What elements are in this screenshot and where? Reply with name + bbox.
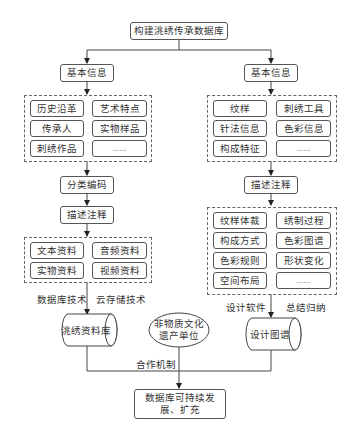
left-describe-label: 描述注释 xyxy=(67,209,107,221)
detail-item: 色彩规则 xyxy=(213,252,267,269)
detail-label: 形状变化 xyxy=(284,255,324,267)
final-node: 数据库可持续发 展、扩充 xyxy=(134,389,226,419)
left-item-label: 艺术特点 xyxy=(100,103,140,115)
right-item-label: 纹样 xyxy=(230,103,250,115)
final-line1: 数据库可持续发 xyxy=(145,392,215,404)
design-atlas-database: 设计图谱 xyxy=(244,318,296,350)
left-item-label: 传承人 xyxy=(42,123,72,135)
material-label: 音频资料 xyxy=(100,245,140,257)
detail-item: …… xyxy=(276,272,331,289)
heritage-unit-line2: 遗产单位 xyxy=(159,330,199,342)
final-line2: 展、扩充 xyxy=(160,404,200,416)
material-item: 音频资料 xyxy=(92,242,147,259)
heritage-unit-line1: 非物质文化 xyxy=(154,318,204,330)
detail-item: 形状变化 xyxy=(276,252,331,269)
right-basic-info-label: 基本信息 xyxy=(251,67,291,79)
material-item: 视频资料 xyxy=(92,262,147,279)
classify-label: 分类编码 xyxy=(67,179,107,191)
detail-item: 空间布局 xyxy=(213,272,267,289)
left-describe-node: 描述注释 xyxy=(60,206,114,224)
left-basic-info: 基本信息 xyxy=(60,64,114,82)
right-describe-node: 描述注释 xyxy=(244,176,298,194)
detail-item: 绣制过程 xyxy=(276,212,331,229)
right-basic-info: 基本信息 xyxy=(244,64,298,82)
left-item: 刺绣作品 xyxy=(30,140,84,157)
design-software-label: 设计软件 xyxy=(226,300,266,314)
detail-item: 色彩图谱 xyxy=(276,232,331,249)
left-item-label: 历史沿革 xyxy=(37,103,77,115)
right-item: 针法信息 xyxy=(213,120,267,137)
left-item: 传承人 xyxy=(30,120,84,137)
material-item: 文本资料 xyxy=(30,242,84,259)
left-item: 艺术特点 xyxy=(92,100,147,117)
material-label: 实物资料 xyxy=(37,265,77,277)
taoxiu-database-label: 洮绣资料库 xyxy=(61,323,111,337)
detail-label: 纹样体裁 xyxy=(220,215,260,227)
heritage-unit-node: 非物质文化 遗产单位 xyxy=(149,314,209,346)
detail-label: …… xyxy=(297,275,311,287)
classify-node: 分类编码 xyxy=(60,176,114,194)
right-item: 纹样 xyxy=(213,100,267,117)
right-item-label: 色彩信息 xyxy=(284,123,324,135)
right-item: …… xyxy=(276,140,331,157)
cooperation-label: 合作机制 xyxy=(136,357,176,371)
left-item-label: …… xyxy=(113,143,127,155)
material-label: 视频资料 xyxy=(100,265,140,277)
design-atlas-label: 设计图谱 xyxy=(250,327,290,341)
left-basic-info-label: 基本信息 xyxy=(67,67,107,79)
right-describe-label: 描述注释 xyxy=(251,179,291,191)
left-item-label: 实物样品 xyxy=(100,123,140,135)
right-item: 构成特征 xyxy=(213,140,267,157)
right-item-label: 构成特征 xyxy=(220,143,260,155)
right-item: 刺绣工具 xyxy=(276,100,331,117)
detail-label: 空间布局 xyxy=(220,275,260,287)
detail-label: 色彩图谱 xyxy=(284,235,324,247)
cloud-tech-label: 云存储技术 xyxy=(96,292,146,306)
right-item-label: 刺绣工具 xyxy=(284,103,324,115)
taoxiu-database: 洮绣资料库 xyxy=(60,314,112,346)
right-item: 色彩信息 xyxy=(276,120,331,137)
right-item-label: 针法信息 xyxy=(220,123,260,135)
material-item: 实物资料 xyxy=(30,262,84,279)
root-label: 构建洮绣传承数据库 xyxy=(134,25,224,37)
detail-item: 构成方式 xyxy=(213,232,267,249)
root-node: 构建洮绣传承数据库 xyxy=(130,22,228,40)
summary-label: 总结归纳 xyxy=(286,300,326,314)
detail-label: 绣制过程 xyxy=(284,215,324,227)
left-item: 实物样品 xyxy=(92,120,147,137)
right-item-label: …… xyxy=(297,143,311,155)
detail-item: 纹样体裁 xyxy=(213,212,267,229)
left-item: …… xyxy=(92,140,147,157)
detail-label: 色彩规则 xyxy=(220,255,260,267)
material-label: 文本资料 xyxy=(37,245,77,257)
db-tech-label: 数据库技术 xyxy=(37,292,87,306)
left-item-label: 刺绣作品 xyxy=(37,143,77,155)
detail-label: 构成方式 xyxy=(220,235,260,247)
left-item: 历史沿革 xyxy=(30,100,84,117)
